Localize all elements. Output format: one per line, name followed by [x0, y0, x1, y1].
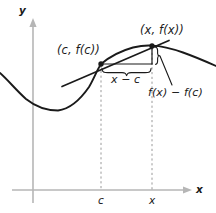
point-label-x-fx: (x, f(x))	[140, 25, 184, 37]
y-axis-label: y	[19, 5, 26, 16]
x-axis-label: x	[196, 184, 203, 195]
point-label-c-fc: (c, f(c))	[57, 45, 100, 57]
tick-label-c: c	[98, 195, 104, 206]
y-axis-arrowhead	[29, 18, 36, 27]
tick-label-x: x	[149, 195, 155, 206]
rise-label: f(x) − f(c)	[148, 87, 203, 98]
run-label: x − c	[111, 74, 140, 85]
difference-quotient-figure: y x (c, f(c)) (x, f(x)) x − c f(x) − f(c…	[0, 0, 216, 213]
point-marker-c	[98, 61, 103, 66]
x-axis-arrowhead	[183, 186, 192, 193]
point-marker-x	[149, 43, 154, 48]
rise-brace	[156, 47, 160, 64]
rise-leader-line	[160, 56, 172, 85]
